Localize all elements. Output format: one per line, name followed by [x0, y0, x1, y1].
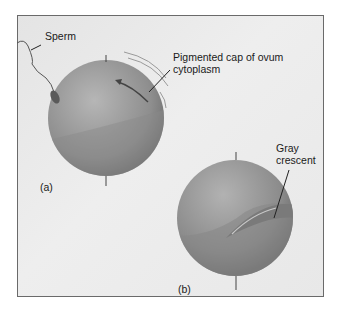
pigmented-cap-label-line1: Pigmented cap of ovum: [173, 51, 283, 63]
gray-crescent-label-line2: crescent: [276, 154, 316, 166]
panel-a-label: (a): [40, 181, 53, 193]
panel-b-label: (b): [178, 283, 191, 295]
sperm-leader-line: [31, 45, 41, 50]
pigmented-cap-label-line2: cytoplasm: [173, 63, 220, 75]
gray-crescent-label-line1: Gray: [276, 142, 299, 154]
ovum-sphere-a: [40, 52, 170, 186]
sperm-label: Sperm: [45, 30, 76, 42]
cap-leader-line: [149, 70, 170, 92]
ovum-sphere-b: [170, 152, 300, 290]
sperm-illustration: [17, 41, 62, 105]
